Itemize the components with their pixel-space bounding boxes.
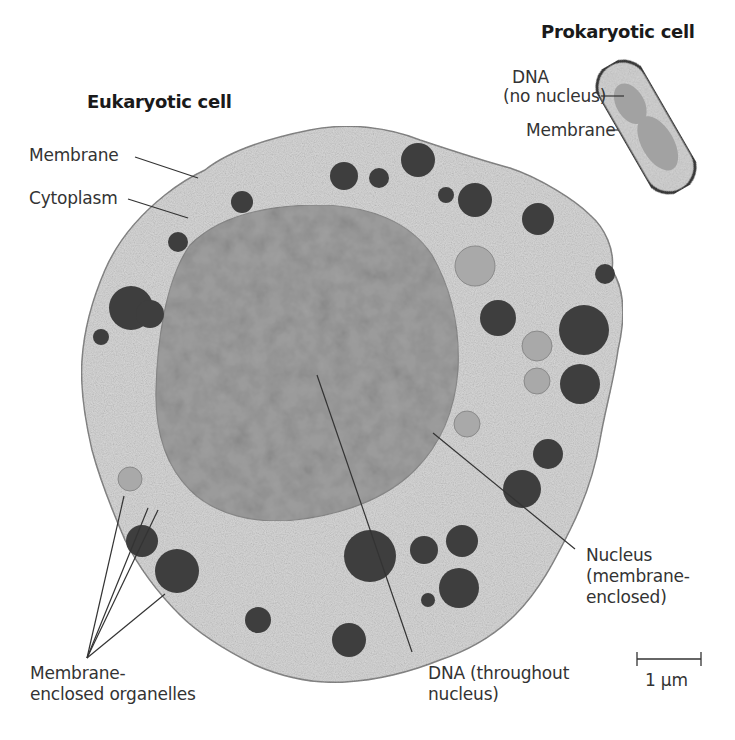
leader-line-organelle-1 <box>87 496 124 658</box>
dna-label-line2: nucleus) <box>428 684 499 705</box>
nucleus-label-line2: (membrane- <box>586 566 690 587</box>
scale-bar <box>637 652 701 666</box>
eukaryotic-cell-title: Eukaryotic cell <box>87 91 232 112</box>
leader-line-organelle-2 <box>87 508 148 658</box>
nucleus-label-line1: Nucleus <box>586 545 652 566</box>
nucleus-label-line3: enclosed) <box>586 587 667 608</box>
prokaryotic-cell-title: Prokaryotic cell <box>541 21 695 42</box>
organelles-label-line2: enclosed organelles <box>30 684 196 705</box>
prok-membrane-label: Membrane <box>526 120 616 141</box>
scale-bar-label: 1 µm <box>645 670 688 691</box>
organelles-label-line1: Membrane- <box>30 663 125 684</box>
euk-membrane-label: Membrane <box>29 145 119 166</box>
prok-dna-label: DNA <box>512 67 549 88</box>
dna-label-line1: DNA (throughout <box>428 663 569 684</box>
cell-comparison-figure: Prokaryotic cell Eukaryotic cell DNA (no… <box>0 0 735 740</box>
leader-line-organelle-4 <box>87 594 165 658</box>
leader-line-membrane <box>135 157 198 178</box>
euk-cytoplasm-label: Cytoplasm <box>29 188 118 209</box>
prok-dna-sublabel: (no nucleus) <box>503 86 606 107</box>
